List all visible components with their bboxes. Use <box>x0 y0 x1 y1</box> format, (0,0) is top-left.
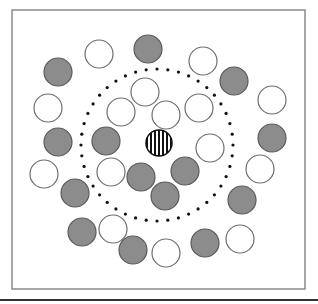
gray-particle <box>61 179 89 207</box>
ring-dot <box>231 133 234 136</box>
ring-dot <box>124 74 127 77</box>
white-particle <box>185 94 213 122</box>
ring-dot <box>166 68 169 71</box>
gray-particle <box>151 182 179 210</box>
ring-dot <box>231 143 234 146</box>
ring-dot <box>155 219 158 222</box>
center-particle-striped <box>146 130 172 156</box>
ring-dot <box>197 207 200 210</box>
white-particle <box>196 134 224 162</box>
white-particle <box>246 155 274 183</box>
ring-dot <box>155 67 158 70</box>
ring-dot <box>197 80 200 83</box>
white-particle <box>85 40 113 68</box>
gray-particle <box>258 124 286 152</box>
ring-dot <box>166 219 169 222</box>
ring-dot <box>145 219 148 222</box>
ring-dot <box>219 185 222 188</box>
ring-dot <box>106 201 109 204</box>
ring-dot <box>228 165 231 168</box>
gray-particle <box>92 127 120 155</box>
ring-dot <box>80 154 83 157</box>
gray-particle <box>191 229 219 257</box>
white-particle <box>34 94 62 122</box>
gray-particle <box>44 128 72 156</box>
ring-dot <box>177 71 180 74</box>
white-particle <box>99 215 127 243</box>
ring-dot <box>114 80 117 83</box>
ring-dot <box>98 94 101 97</box>
white-particle <box>152 239 180 267</box>
ring-dot <box>134 216 137 219</box>
gray-particle <box>127 163 155 191</box>
ring-dot <box>86 112 89 115</box>
ring-dot <box>225 175 228 178</box>
white-particle <box>258 86 286 114</box>
ring-dot <box>114 207 117 210</box>
white-particle <box>189 47 217 75</box>
gray-particle <box>220 67 248 95</box>
ring-dot <box>228 122 231 125</box>
ring-dot <box>92 102 95 105</box>
ring-dot <box>213 193 216 196</box>
gray-particle <box>119 236 147 264</box>
particle-diagram <box>0 0 318 304</box>
ring-dot <box>80 133 83 136</box>
ring-dot <box>134 71 137 74</box>
gray-particle <box>171 157 199 185</box>
ring-dot <box>79 143 82 146</box>
ring-dot <box>106 86 109 89</box>
ring-dot <box>213 94 216 97</box>
ring-dot <box>205 86 208 89</box>
ring-dot <box>225 112 228 115</box>
ring-dot <box>187 74 190 77</box>
gray-particle <box>134 35 162 63</box>
gray-particle <box>44 58 72 86</box>
diagram-canvas <box>0 0 318 304</box>
ring-dot <box>86 175 89 178</box>
gray-particle <box>228 186 256 214</box>
white-particle <box>97 158 125 186</box>
white-particle <box>152 101 180 129</box>
ring-dot <box>187 213 190 216</box>
ring-dot <box>124 213 127 216</box>
gray-particle <box>68 218 96 246</box>
ring-dot <box>145 68 148 71</box>
ring-dot <box>205 201 208 204</box>
white-particle <box>226 225 254 253</box>
white-particle <box>107 98 135 126</box>
ring-dot <box>219 102 222 105</box>
ring-dot <box>83 122 86 125</box>
ring-dot <box>92 185 95 188</box>
ring-dot <box>98 193 101 196</box>
white-particle <box>131 78 159 106</box>
ring-dot <box>83 165 86 168</box>
white-particle <box>30 160 58 188</box>
ring-dot <box>177 216 180 219</box>
ring-dot <box>231 154 234 157</box>
